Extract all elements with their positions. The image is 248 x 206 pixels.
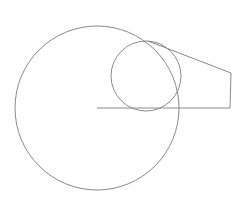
geometry-diagram: [0, 0, 248, 206]
small-circle: [111, 41, 181, 111]
tangent-polyline: [148, 41, 231, 108]
